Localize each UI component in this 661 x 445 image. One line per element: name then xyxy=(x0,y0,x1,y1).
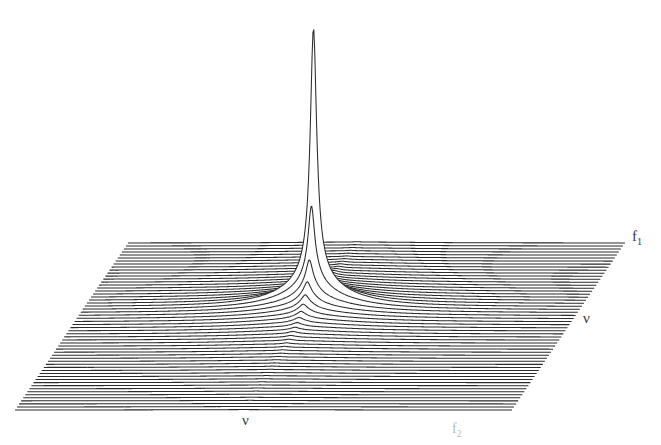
plot-background xyxy=(0,0,661,445)
axis-label-f2: f2 xyxy=(452,421,461,437)
trace-line xyxy=(21,400,518,401)
axis-label-nu-right: ν xyxy=(583,310,590,327)
trace-line xyxy=(25,394,522,395)
trace-line xyxy=(23,397,520,398)
figure-container: f1 ν ν f2 xyxy=(0,0,661,445)
axis-label-f2-subscript: 2 xyxy=(457,429,462,439)
trace-line xyxy=(19,403,516,404)
axis-label-nu-bottom: ν xyxy=(242,412,249,429)
axis-label-f1: f1 xyxy=(632,228,642,245)
stacked-trace-plot xyxy=(0,0,661,445)
axis-label-f1-subscript: 1 xyxy=(637,236,642,247)
